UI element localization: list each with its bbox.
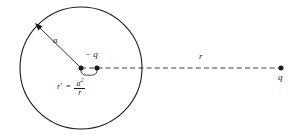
- source-charge-label: q: [278, 73, 283, 82]
- formula-fraction: a2 r: [74, 77, 85, 97]
- sphere-center-dot: [79, 66, 84, 71]
- formula-numerator-exponent: 2: [80, 77, 83, 83]
- formula-lhs: r′: [57, 82, 62, 91]
- radius-label: a: [53, 36, 58, 45]
- diagram-canvas: [0, 0, 299, 134]
- radius-line: [38, 26, 81, 68]
- formula-numerator: a2: [74, 77, 85, 88]
- image-charge-label: − q: [85, 50, 98, 59]
- image-charge-dot: [95, 66, 100, 71]
- image-distance-brace: [81, 70, 97, 75]
- image-charge-diagram: a − q r q r′ = a2 r: [0, 0, 299, 134]
- formula-denominator: r: [76, 89, 83, 97]
- image-distance-formula: r′ = a2 r: [57, 77, 85, 97]
- formula-equals: =: [65, 82, 72, 91]
- source-charge-dot: [279, 66, 284, 71]
- distance-label: r: [199, 52, 203, 61]
